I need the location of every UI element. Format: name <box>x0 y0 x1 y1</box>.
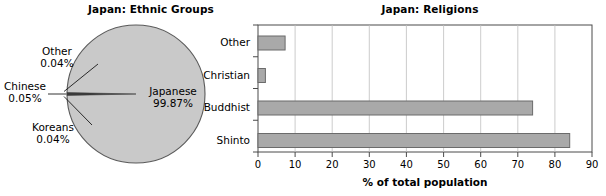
pie-label-chinese-name: Chinese <box>4 80 46 92</box>
pie-label-chinese-pct: 0.05% <box>4 93 46 105</box>
category-label-buddhist: Buddhist <box>204 102 250 114</box>
bar-chart-panel: Japan: Religions <box>250 0 606 196</box>
category-ticks <box>253 25 258 152</box>
pie-label-koreans-pct: 0.04% <box>32 134 74 146</box>
x-tick-30: 30 <box>363 159 376 170</box>
bar-shinto <box>258 134 570 148</box>
pie-label-japanese-pct: 99.87% <box>149 98 197 110</box>
x-tick-50: 50 <box>437 159 450 170</box>
x-tick-20: 20 <box>326 159 339 170</box>
pie-label-other: Other 0.04% <box>40 46 73 70</box>
category-label-shinto: Shinto <box>217 135 250 147</box>
pie-label-koreans: Koreans 0.04% <box>32 122 74 146</box>
pie-label-chinese: Chinese 0.05% <box>4 81 46 105</box>
category-label-other: Other <box>220 37 250 49</box>
x-tick-60: 60 <box>474 159 487 170</box>
bar-christian <box>258 69 265 83</box>
bar-buddhist <box>258 101 533 115</box>
x-axis-ticks <box>258 152 592 157</box>
x-tick-40: 40 <box>400 159 413 170</box>
pie-label-japanese-name: Japanese <box>149 85 197 97</box>
x-tick-0: 0 <box>255 159 261 170</box>
pie-label-japanese: Japanese 99.87% <box>149 86 197 110</box>
pie-chart-panel: Japan: Ethnic Groups Japanese 99.87% Oth… <box>0 0 250 196</box>
x-tick-10: 10 <box>289 159 302 170</box>
x-tick-90: 90 <box>586 159 599 170</box>
bar-other <box>258 36 285 50</box>
plot-frame <box>258 25 592 152</box>
x-axis-title: % of total population <box>363 177 488 189</box>
x-tick-80: 80 <box>549 159 562 170</box>
x-tick-70: 70 <box>511 159 524 170</box>
figure-canvas: Japan: Ethnic Groups Japanese 99.87% Oth… <box>0 0 606 196</box>
category-label-christian: Christian <box>203 70 250 82</box>
pie-label-koreans-name: Koreans <box>32 121 74 133</box>
pie-label-other-pct: 0.04% <box>40 58 73 70</box>
pie-label-other-name: Other <box>42 45 72 57</box>
